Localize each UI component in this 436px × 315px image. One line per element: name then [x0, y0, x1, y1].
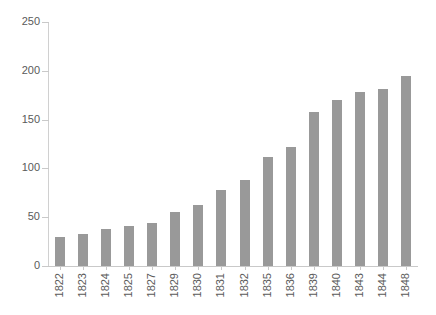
x-axis-tick [106, 266, 107, 270]
bar [309, 112, 319, 266]
y-axis-label-text: 0 [2, 260, 40, 271]
bar [193, 205, 203, 266]
x-axis-label: 1825 [123, 273, 134, 297]
y-axis-label-text: 50 [2, 211, 40, 222]
x-axis-tick [60, 266, 61, 270]
x-axis-label: 1844 [377, 273, 388, 297]
x-axis-tick [198, 266, 199, 270]
x-axis-label: 1848 [400, 273, 411, 297]
y-axis-label: 250 [0, 16, 40, 27]
x-axis-tick [360, 266, 361, 270]
x-axis-label: 1829 [169, 273, 180, 297]
bar [378, 89, 388, 266]
bar-chart: 050100150200250 182218231824182518271829… [0, 0, 436, 315]
x-axis-tick [268, 266, 269, 270]
bar [101, 229, 111, 266]
y-axis-label-text: 150 [2, 114, 40, 125]
bar [78, 234, 88, 266]
y-axis-label: 50 [0, 211, 40, 222]
y-axis-label: 100 [0, 162, 40, 173]
x-axis-label: 1840 [331, 273, 342, 297]
x-axis-line [48, 266, 418, 267]
x-axis-tick [83, 266, 84, 270]
x-axis-tick [383, 266, 384, 270]
x-axis-tick [314, 266, 315, 270]
x-axis-label: 1823 [77, 273, 88, 297]
x-axis-tick [152, 266, 153, 270]
y-axis-label: 200 [0, 65, 40, 76]
y-axis-tick [42, 266, 49, 267]
bar [401, 76, 411, 266]
bar [124, 226, 134, 266]
y-axis-label: 150 [0, 114, 40, 125]
x-axis-label: 1843 [354, 273, 365, 297]
x-axis-tick [291, 266, 292, 270]
x-axis-label: 1831 [215, 273, 226, 297]
x-axis-label: 1824 [100, 273, 111, 297]
x-axis-tick [221, 266, 222, 270]
bar [147, 223, 157, 266]
bar [240, 180, 250, 266]
x-axis-label: 1835 [262, 273, 273, 297]
bar [216, 190, 226, 266]
y-axis-label-text: 100 [2, 162, 40, 173]
x-axis-tick [406, 266, 407, 270]
x-axis-label: 1827 [146, 273, 157, 297]
bar [355, 92, 365, 266]
bar [170, 212, 180, 266]
x-axis-label: 1836 [285, 273, 296, 297]
y-axis-label-text: 200 [2, 65, 40, 76]
bar [286, 147, 296, 266]
plot-area [48, 22, 418, 266]
x-axis-label: 1839 [308, 273, 319, 297]
bar [332, 100, 342, 266]
x-axis-tick [337, 266, 338, 270]
bar [55, 237, 65, 266]
y-axis-label: 0 [0, 260, 40, 271]
x-axis-tick [245, 266, 246, 270]
x-axis-label: 1830 [192, 273, 203, 297]
bar [263, 157, 273, 266]
x-axis-tick [175, 266, 176, 270]
x-axis-tick [129, 266, 130, 270]
x-axis-label: 1822 [54, 273, 65, 297]
x-axis-label: 1832 [239, 273, 250, 297]
y-axis-label-text: 250 [2, 16, 40, 27]
